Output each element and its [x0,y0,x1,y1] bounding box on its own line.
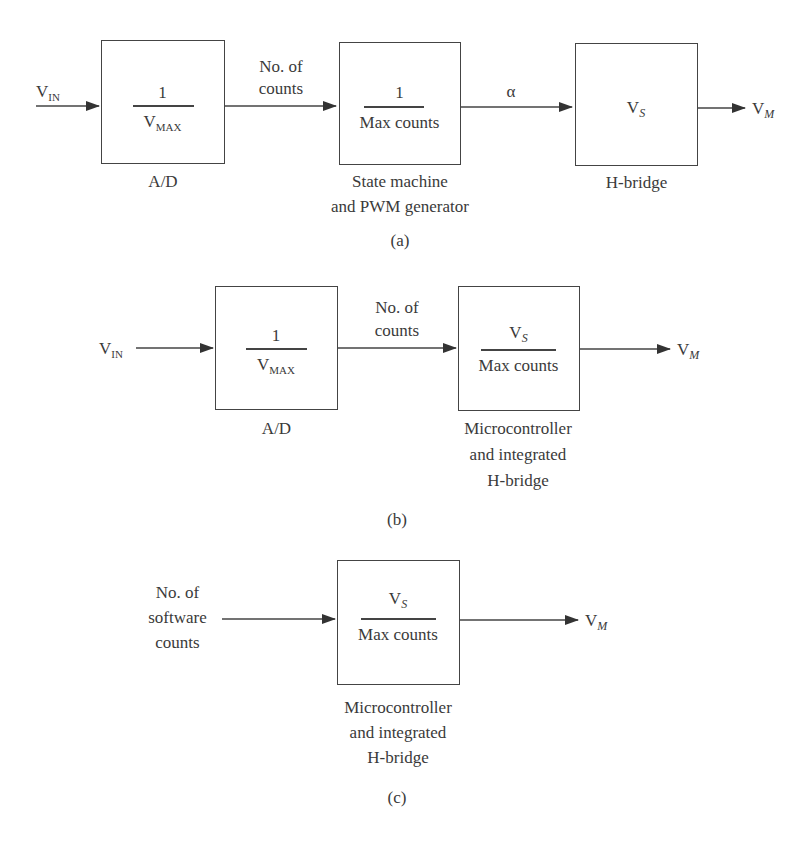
block-denominator: VMAX [216,355,336,375]
v-m-subscript: M [597,619,607,633]
v-symbol: V [99,339,111,358]
v-s-subscript: S [522,331,528,345]
block-label-state-machine-line1: State machine [300,172,500,192]
block-ad-a: 1 VMAX [101,40,225,164]
block-label-state-machine-line2: and PWM generator [300,197,500,217]
v-symbol: V [677,340,689,359]
input-v-in-b: VIN [99,339,123,359]
block-microcontroller-b: VS Max counts [458,286,580,411]
v-s-subscript: S [639,106,645,120]
v-symbol: V [36,82,48,101]
caption-c: (c) [367,788,427,808]
block-label-ad: A/D [215,419,338,439]
input-v-in-a: VIN [36,82,60,102]
v-m-subscript: M [689,348,699,362]
block-label-microcontroller-line2: and integrated [298,723,498,743]
v-symbol: V [585,611,597,630]
output-v-m-b: VM [677,340,699,360]
fraction-bar [133,105,194,107]
block-numerator: VS [338,589,458,609]
v-max-subscript: MAX [156,121,182,133]
input-label-line2: software [130,608,225,628]
output-v-m-a: VM [752,99,774,119]
signal-label-counts-line1: No. of [236,57,326,77]
v-m-subscript: M [764,107,774,121]
block-h-bridge: VS [575,43,698,166]
output-v-m-c: VM [585,611,607,631]
v-symbol: V [257,355,269,374]
block-state-machine: 1 Max counts [339,42,461,165]
signal-label-alpha: α [496,82,526,102]
caption-b: (b) [367,510,427,530]
v-symbol: V [627,98,639,117]
fraction-bar [361,618,436,620]
signal-label-counts-line2: counts [236,79,326,99]
block-label-h-bridge: H-bridge [575,173,698,193]
v-symbol: V [509,323,521,342]
v-symbol: V [752,99,764,118]
block-numerator: 1 [102,83,223,103]
v-in-subscript: IN [48,91,60,103]
block-label-microcontroller-line3: H-bridge [298,748,498,768]
v-symbol: V [389,589,401,608]
block-label-microcontroller-line1: Microcontroller [298,698,498,718]
block-label-microcontroller-line2: and integrated [418,445,618,465]
signal-label-counts-line2: counts [352,321,442,341]
block-numerator: 1 [216,326,336,346]
fraction-bar [481,349,556,351]
block-numerator: 1 [340,83,459,103]
block-numerator: VS [459,323,578,343]
block-ad-b: 1 VMAX [215,286,338,410]
block-content: VS [576,98,696,118]
block-label-microcontroller-line3: H-bridge [418,471,618,491]
block-label-microcontroller-line1: Microcontroller [418,419,618,439]
block-label-ad: A/D [101,172,225,192]
input-label-line3: counts [130,633,225,653]
signal-label-counts-line1: No. of [352,298,442,318]
caption-a: (a) [370,231,430,251]
block-denominator: Max counts [340,113,459,133]
v-in-subscript: IN [111,348,123,360]
input-label-line1: No. of [130,583,225,603]
block-denominator: Max counts [338,625,458,645]
fraction-bar [246,348,307,350]
block-denominator: VMAX [102,112,223,132]
block-microcontroller-c: VS Max counts [337,560,460,685]
fraction-bar [364,106,424,108]
v-max-subscript: MAX [269,364,295,376]
v-symbol: V [144,112,156,131]
v-s-subscript: S [401,597,407,611]
block-denominator: Max counts [459,356,578,376]
